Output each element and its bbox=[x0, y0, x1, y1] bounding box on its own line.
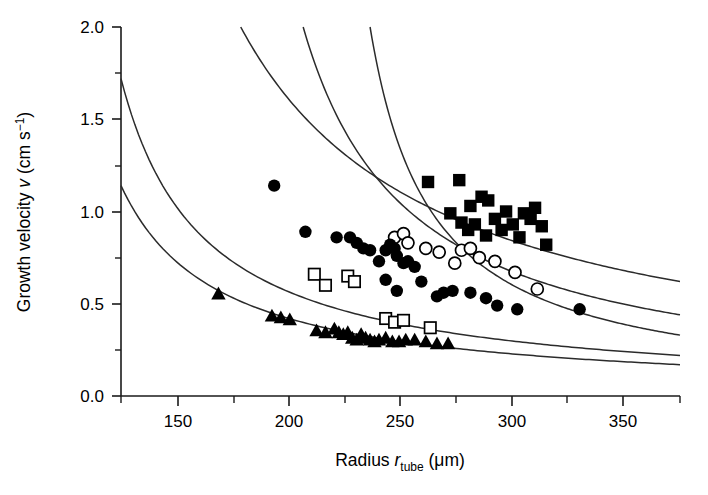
data-point-filled-square bbox=[489, 213, 501, 225]
x-tick-label: 200 bbox=[275, 412, 303, 431]
data-point-filled-circle bbox=[491, 299, 503, 311]
data-point-open-circle bbox=[464, 242, 476, 254]
data-point-filled-triangle bbox=[407, 333, 421, 346]
x-axis-ticks bbox=[121, 396, 680, 406]
data-point-open-circle bbox=[509, 266, 521, 278]
y-tick-label: 1.0 bbox=[80, 203, 104, 222]
figure-container: 2.0 1.5 1.0 0.5 0.0 150 200 250 300 3 bbox=[0, 0, 708, 495]
data-point-filled-square bbox=[536, 220, 548, 232]
data-point-filled-circle bbox=[364, 244, 376, 256]
x-axis-title-lead: Radius bbox=[335, 450, 394, 470]
data-point-open-circle bbox=[420, 242, 432, 254]
data-point-filled-circle bbox=[268, 179, 280, 191]
data-point-filled-square bbox=[464, 200, 476, 212]
data-point-filled-circle bbox=[299, 226, 311, 238]
data-point-filled-square bbox=[444, 207, 456, 219]
scatter-plot: 2.0 1.5 1.0 0.5 0.0 150 200 250 300 3 bbox=[0, 0, 708, 495]
x-tick-labels: 150 200 250 300 350 bbox=[164, 412, 637, 431]
x-axis-title: Radius rtube (μm) bbox=[335, 450, 465, 474]
x-tick-label: 250 bbox=[386, 412, 414, 431]
y-tick-labels: 2.0 1.5 1.0 0.5 0.0 bbox=[80, 18, 104, 406]
data-point-open-circle bbox=[449, 257, 461, 269]
curve-1 bbox=[241, 27, 680, 282]
y-axis-title-lead: Growth velocity bbox=[14, 188, 34, 312]
data-markers-layer bbox=[211, 174, 586, 349]
data-point-filled-triangle bbox=[419, 335, 433, 348]
y-tick-label: 0.5 bbox=[80, 295, 104, 314]
x-axis-title-subscript: tube bbox=[400, 460, 424, 474]
data-point-open-circle bbox=[402, 237, 414, 249]
data-point-filled-square bbox=[480, 229, 492, 241]
data-point-filled-triangle bbox=[441, 336, 455, 349]
series-filled-triangles bbox=[211, 287, 455, 350]
data-point-open-circle bbox=[473, 252, 485, 264]
y-axis-title-units-open: (cm s bbox=[14, 131, 34, 179]
data-point-filled-square bbox=[462, 224, 474, 236]
data-point-open-square bbox=[398, 315, 409, 326]
data-point-open-circle bbox=[489, 255, 501, 267]
data-point-filled-square bbox=[507, 218, 519, 230]
y-axis-title-exponent: −1 bbox=[13, 117, 27, 131]
data-point-filled-circle bbox=[379, 274, 391, 286]
data-point-filled-circle bbox=[446, 285, 458, 297]
data-point-filled-square bbox=[482, 194, 494, 206]
data-point-filled-circle bbox=[408, 261, 420, 273]
y-tick-label: 2.0 bbox=[80, 18, 104, 37]
x-tick-label: 300 bbox=[498, 412, 526, 431]
data-point-filled-square bbox=[524, 213, 536, 225]
data-point-filled-circle bbox=[511, 303, 523, 315]
data-point-filled-circle bbox=[573, 303, 585, 315]
data-point-filled-square bbox=[495, 224, 507, 236]
data-point-filled-circle bbox=[480, 292, 492, 304]
data-point-filled-square bbox=[540, 239, 552, 251]
data-point-filled-square bbox=[422, 176, 434, 188]
y-axis-title: Growth velocity v (cm s−1) bbox=[13, 112, 34, 312]
data-point-open-circle bbox=[531, 283, 543, 295]
data-point-open-square bbox=[425, 322, 436, 333]
data-point-open-square bbox=[349, 276, 360, 287]
x-tick-label: 150 bbox=[164, 412, 192, 431]
data-point-filled-circle bbox=[330, 231, 342, 243]
x-tick-label: 350 bbox=[609, 412, 637, 431]
data-point-filled-square bbox=[500, 205, 512, 217]
data-point-filled-square bbox=[529, 202, 541, 214]
data-point-filled-circle bbox=[415, 275, 427, 287]
y-tick-label: 0.0 bbox=[80, 387, 104, 406]
data-point-open-square bbox=[309, 269, 320, 280]
data-point-filled-circle bbox=[373, 255, 385, 267]
data-point-filled-square bbox=[453, 174, 465, 186]
data-point-filled-circle bbox=[391, 285, 403, 297]
y-axis-ticks bbox=[112, 27, 121, 396]
data-point-open-square bbox=[320, 280, 331, 291]
y-axis-title-units-close: ) bbox=[14, 112, 34, 118]
data-point-filled-square bbox=[513, 231, 525, 243]
data-point-open-circle bbox=[433, 246, 445, 258]
curve-3 bbox=[370, 27, 680, 335]
y-tick-label: 1.5 bbox=[80, 110, 104, 129]
x-axis-title-units: (μm) bbox=[424, 450, 465, 470]
data-point-filled-circle bbox=[464, 286, 476, 298]
